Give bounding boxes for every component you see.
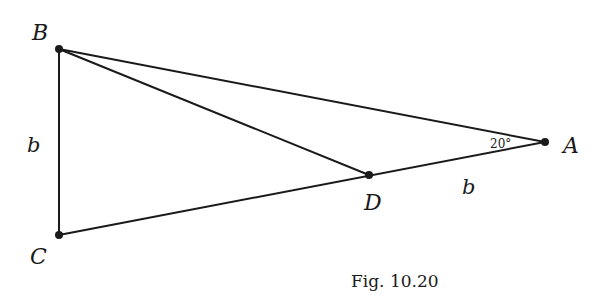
segment-bd xyxy=(59,49,369,175)
segment-ba xyxy=(59,49,545,142)
label-a: A xyxy=(561,133,579,158)
diagram-canvas: B A D C b b 20° Fig. 10.20 xyxy=(0,0,608,302)
label-b: B xyxy=(31,20,48,45)
point-d xyxy=(365,171,373,179)
label-side-da: b xyxy=(462,175,475,199)
label-d: D xyxy=(363,190,382,215)
point-a xyxy=(541,138,549,146)
triangle-figure: B A D C b b 20° Fig. 10.20 xyxy=(0,0,608,302)
figure-caption: Fig. 10.20 xyxy=(351,271,439,291)
label-c: C xyxy=(30,244,47,269)
point-c xyxy=(55,231,63,239)
label-angle-a: 20° xyxy=(490,137,511,151)
label-side-bc: b xyxy=(27,133,40,157)
point-b xyxy=(55,45,63,53)
